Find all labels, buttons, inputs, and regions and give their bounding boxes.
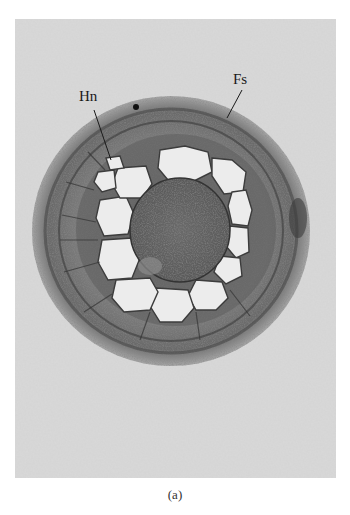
central-core bbox=[130, 178, 230, 282]
label-hn: Hn bbox=[79, 89, 97, 104]
root-cross-section bbox=[15, 19, 336, 478]
micrograph-photo bbox=[15, 19, 336, 478]
figure-caption: (a) bbox=[0, 487, 350, 503]
label-fs: Fs bbox=[233, 72, 247, 87]
debris-dot bbox=[133, 104, 139, 110]
